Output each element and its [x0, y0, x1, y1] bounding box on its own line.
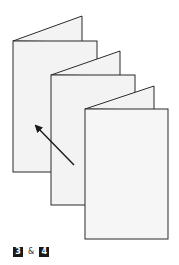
page-front-3	[85, 109, 168, 239]
step-badge-4: 4	[39, 247, 49, 257]
step-badge-3: 3	[13, 247, 23, 257]
folded-leaflet-diagram	[0, 0, 179, 265]
page-flap-1	[13, 16, 82, 42]
page-panel-3	[85, 86, 168, 239]
caption-ampersand: &	[26, 247, 36, 257]
step-caption: 3 & 4	[13, 247, 49, 257]
